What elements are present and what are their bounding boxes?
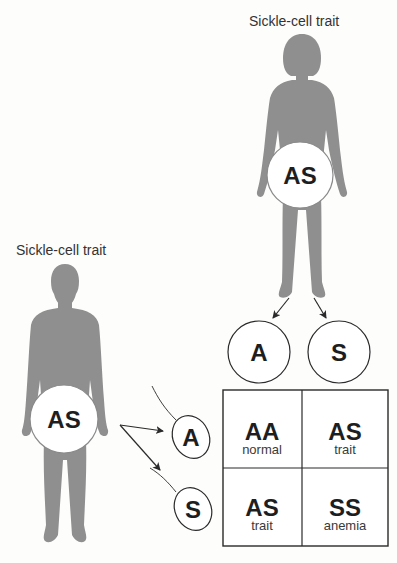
mother-genotype-badge: AS bbox=[267, 142, 333, 208]
sperm-a: A bbox=[152, 386, 217, 465]
svg-text:AA: AA bbox=[245, 418, 280, 445]
father-to-sperm-a-arrow bbox=[120, 425, 163, 431]
punnett-square: AA normal AS trait AS trait SS anemia bbox=[223, 390, 388, 546]
father-to-sperm-s-arrow bbox=[120, 425, 160, 470]
father-genotype-badge: AS bbox=[30, 385, 98, 453]
egg-s: S bbox=[308, 321, 370, 383]
svg-text:SS: SS bbox=[329, 494, 361, 521]
svg-text:A: A bbox=[182, 424, 199, 451]
svg-text:S: S bbox=[331, 339, 347, 366]
sperm-s: S bbox=[150, 468, 219, 537]
svg-text:S: S bbox=[185, 496, 201, 523]
svg-text:trait: trait bbox=[251, 518, 273, 533]
svg-text:AS: AS bbox=[47, 406, 80, 433]
mother-to-egg-a-arrow bbox=[273, 298, 289, 318]
inheritance-diagram: AS A S AS A S bbox=[0, 0, 397, 563]
egg-a: A bbox=[228, 321, 290, 383]
svg-text:normal: normal bbox=[242, 442, 282, 457]
punnett-cell-ss: SS anemia bbox=[324, 494, 367, 533]
svg-text:anemia: anemia bbox=[324, 518, 367, 533]
punnett-cell-aa: AA normal bbox=[242, 418, 282, 457]
svg-text:A: A bbox=[250, 339, 267, 366]
svg-text:AS: AS bbox=[283, 162, 316, 189]
svg-text:trait: trait bbox=[334, 442, 356, 457]
svg-text:AS: AS bbox=[328, 418, 361, 445]
svg-text:AS: AS bbox=[245, 494, 278, 521]
mother-to-egg-s-arrow bbox=[314, 298, 326, 318]
